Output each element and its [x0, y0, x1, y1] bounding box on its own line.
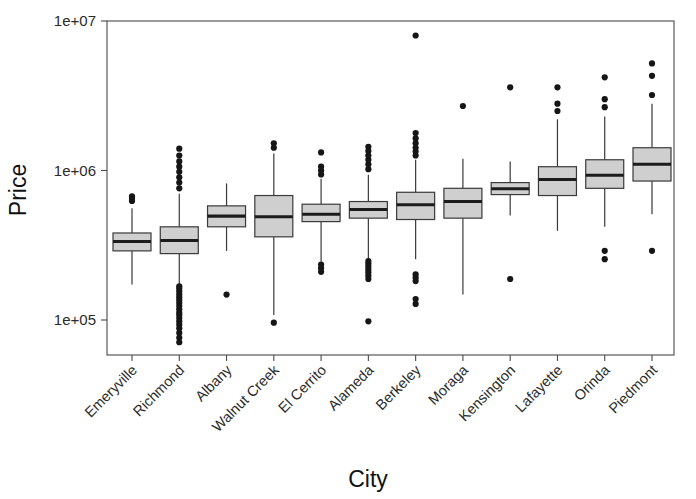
box-berkeley [397, 32, 435, 307]
outlier-point [507, 276, 513, 282]
x-axis-ticks: EmeryvilleRichmondAlbanyWalnut CreekEl C… [82, 355, 661, 435]
box-richmond [160, 146, 198, 346]
chart-canvas: 1e+071e+061e+05 EmeryvilleRichmondAlbany… [0, 0, 696, 499]
outlier-point [176, 174, 182, 180]
outlier-point [318, 149, 324, 155]
x-tick-label-berkeley: Berkeley [373, 361, 425, 413]
boxplot-series [113, 32, 671, 345]
outlier-point [176, 283, 182, 289]
outlier-point [413, 271, 419, 277]
outlier-point [649, 92, 655, 98]
outlier-point [649, 248, 655, 254]
outlier-point [176, 152, 182, 158]
box-albany [208, 183, 246, 297]
box-body [444, 188, 482, 218]
box-emeryville [113, 193, 151, 284]
outlier-point [176, 185, 182, 191]
boxplot-figure: 1e+071e+061e+05 EmeryvilleRichmondAlbany… [0, 0, 696, 499]
outlier-point [602, 74, 608, 80]
outlier-point [554, 101, 560, 107]
box-kensington [491, 84, 529, 282]
outlier-point [554, 108, 560, 114]
outlier-point [129, 193, 135, 199]
x-tick-label-piedmont: Piedmont [605, 362, 660, 417]
box-body [538, 167, 576, 196]
x-tick-label-richmond: Richmond [130, 362, 187, 419]
box-alameda [349, 144, 387, 325]
x-axis-label: City [348, 466, 388, 492]
x-tick-label-moraga: Moraga [425, 361, 472, 408]
outlier-point [602, 256, 608, 262]
outlier-point [223, 291, 229, 297]
x-tick-label-emeryville: Emeryville [82, 362, 141, 421]
outlier-point [318, 164, 324, 170]
outlier-point [554, 84, 560, 90]
outlier-point [176, 164, 182, 170]
box-orinda [586, 74, 624, 262]
box-el-cerrito [302, 149, 340, 275]
outlier-point [176, 158, 182, 164]
outlier-point [649, 73, 655, 79]
outlier-point [413, 32, 419, 38]
x-tick-label-albany: Albany [192, 361, 235, 404]
y-tick-label: 1e+05 [54, 311, 96, 328]
x-tick-label-lafayette: Lafayette [512, 362, 566, 416]
outlier-point [602, 96, 608, 102]
outlier-point [271, 320, 277, 326]
x-tick-label-orinda: Orinda [571, 361, 614, 404]
outlier-point [602, 248, 608, 254]
y-axis-label: Price [5, 164, 31, 216]
box-walnut-creek [255, 140, 293, 326]
y-axis-ticks: 1e+071e+061e+05 [54, 12, 107, 328]
box-moraga [444, 103, 482, 295]
outlier-point [176, 146, 182, 152]
outlier-point [413, 130, 419, 136]
outlier-point [413, 296, 419, 302]
x-tick-label-alameda: Alameda [325, 361, 377, 413]
box-piedmont [633, 60, 671, 254]
outlier-point [460, 103, 466, 109]
outlier-point [602, 104, 608, 110]
x-tick-label-el-cerrito: El Cerrito [275, 362, 329, 416]
outlier-point [271, 140, 277, 146]
outlier-point [413, 135, 419, 141]
outlier-point [365, 258, 371, 264]
outlier-point [318, 261, 324, 267]
box-lafayette [538, 84, 576, 231]
outlier-point [365, 318, 371, 324]
outlier-point [649, 60, 655, 66]
outlier-point [365, 144, 371, 150]
y-tick-label: 1e+06 [54, 162, 96, 179]
outlier-point [507, 84, 513, 90]
y-tick-label: 1e+07 [54, 12, 96, 29]
